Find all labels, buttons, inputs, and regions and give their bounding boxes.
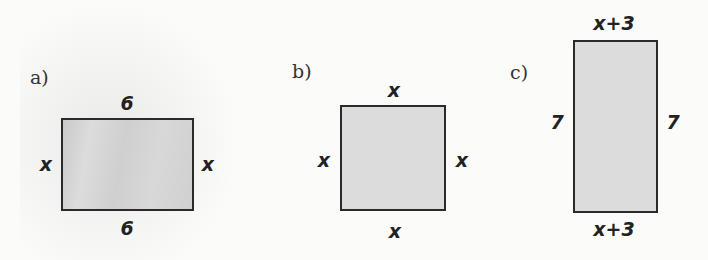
dimension-top: x (388, 79, 400, 101)
dimension-right: x (202, 153, 214, 175)
dimension-left: x (318, 149, 330, 171)
figure-label: b) (292, 60, 312, 82)
square-shape (340, 105, 446, 211)
dimension-bottom: x+3 (593, 218, 634, 240)
dimension-bottom: x (389, 220, 401, 242)
dimension-top: 6 (120, 92, 133, 114)
figure-label: c) (510, 61, 528, 83)
dimension-right: 7 (666, 111, 679, 133)
dimension-left: x (40, 153, 52, 175)
dimension-bottom: 6 (120, 217, 133, 239)
figure-label: a) (30, 66, 49, 88)
rectangle-shape (61, 118, 194, 211)
rectangle-shape (573, 40, 658, 213)
dimension-right: x (456, 149, 468, 171)
dimension-top: x+3 (593, 12, 634, 34)
dimension-left: 7 (550, 111, 563, 133)
